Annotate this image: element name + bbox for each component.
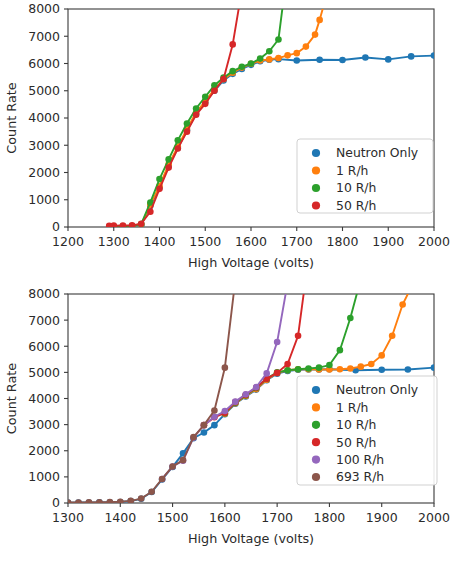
y-tick-label: 8000 <box>28 286 60 301</box>
data-point <box>275 55 282 62</box>
legend-label: 693 R/h <box>336 469 384 484</box>
data-point <box>339 57 346 64</box>
data-point <box>389 333 396 340</box>
data-point <box>180 457 187 464</box>
series-5 <box>65 289 235 506</box>
series-line <box>68 289 234 503</box>
series-line <box>114 4 324 227</box>
data-point <box>293 57 300 64</box>
series-3 <box>201 289 305 429</box>
data-point <box>201 429 208 436</box>
data-point <box>201 422 208 429</box>
data-point <box>295 333 302 340</box>
data-point <box>211 407 218 414</box>
x-tick-label: 1500 <box>157 510 189 525</box>
data-point <box>75 499 82 506</box>
data-point <box>284 52 291 59</box>
data-point <box>312 31 319 38</box>
legend: Neutron Only1 R/h10 R/h50 R/h100 R/h693 … <box>297 376 437 485</box>
data-point <box>326 362 333 369</box>
x-tick-label: 1700 <box>281 234 313 249</box>
data-point <box>229 68 236 75</box>
data-point <box>431 364 438 371</box>
data-point <box>284 361 291 368</box>
data-point <box>86 499 93 506</box>
data-point <box>274 370 281 377</box>
y-tick-label: 2000 <box>28 165 60 180</box>
data-point <box>211 87 218 94</box>
data-point <box>107 499 114 506</box>
legend-marker <box>312 184 320 192</box>
data-point <box>120 222 127 229</box>
data-point <box>138 220 145 227</box>
data-point <box>266 48 273 55</box>
y-tick-label: 3000 <box>28 417 60 432</box>
y-tick-label: 4000 <box>28 110 60 125</box>
legend-label: 50 R/h <box>336 198 376 213</box>
y-axis-title: Count Rate <box>4 363 19 435</box>
legend-label: Neutron Only <box>336 382 418 397</box>
data-point <box>229 41 236 48</box>
data-point <box>169 463 176 470</box>
series-1 <box>110 4 324 230</box>
data-point <box>184 128 191 135</box>
data-point <box>295 366 302 373</box>
x-tick-label: 1400 <box>144 234 176 249</box>
x-tick-label: 1600 <box>235 234 267 249</box>
data-point <box>222 364 229 371</box>
data-point <box>399 301 406 308</box>
data-point <box>293 50 300 57</box>
data-point <box>378 366 385 373</box>
figure-container: 1200130014001500160017001800190020000100… <box>0 0 461 564</box>
x-tick-label: 1500 <box>189 234 221 249</box>
legend-marker <box>312 201 320 209</box>
data-point <box>368 361 375 368</box>
legend-label: 50 R/h <box>336 435 376 450</box>
x-tick-label: 2000 <box>418 234 450 249</box>
chart-svg-top: 1200130014001500160017001800190020000100… <box>0 0 461 276</box>
x-tick-label: 1900 <box>372 234 404 249</box>
x-tick-label: 1300 <box>52 510 84 525</box>
data-point <box>316 364 323 371</box>
legend-label: 10 R/h <box>336 417 376 432</box>
data-point <box>220 76 227 83</box>
x-tick-label: 1400 <box>104 510 136 525</box>
data-point <box>305 365 312 372</box>
data-point <box>148 488 155 495</box>
x-tick-label: 1800 <box>314 510 346 525</box>
legend-marker <box>312 421 320 429</box>
y-tick-label: 3000 <box>28 138 60 153</box>
x-axis-title: High Voltage (volts) <box>188 531 314 546</box>
data-point <box>239 63 246 70</box>
data-point <box>248 60 255 67</box>
legend-label: 10 R/h <box>336 180 376 195</box>
x-tick-label: 1700 <box>261 510 293 525</box>
series-3 <box>106 4 240 230</box>
y-tick-label: 2000 <box>28 443 60 458</box>
data-point <box>378 352 385 359</box>
data-point <box>266 56 273 63</box>
data-point <box>138 495 145 502</box>
legend-marker <box>312 473 320 481</box>
legend: Neutron Only1 R/h10 R/h50 R/h <box>297 139 433 213</box>
data-point <box>337 347 344 354</box>
data-point <box>232 398 239 405</box>
data-point <box>165 164 172 171</box>
data-point <box>275 36 282 43</box>
legend-marker <box>312 166 320 174</box>
y-tick-label: 6000 <box>28 56 60 71</box>
x-tick-label: 1300 <box>98 234 130 249</box>
data-point <box>156 186 163 193</box>
series-line <box>109 4 239 226</box>
data-point <box>385 56 392 63</box>
data-point <box>211 422 218 429</box>
y-tick-label: 0 <box>52 219 60 234</box>
data-point <box>257 55 264 62</box>
data-point <box>431 52 438 59</box>
series-4 <box>159 289 287 482</box>
legend-marker <box>312 456 320 464</box>
data-point <box>408 53 415 60</box>
chart-svg-bottom: 1300140015001600170018001900200001000200… <box>0 276 461 564</box>
legend-label: 100 R/h <box>336 452 384 467</box>
data-point <box>129 222 136 229</box>
